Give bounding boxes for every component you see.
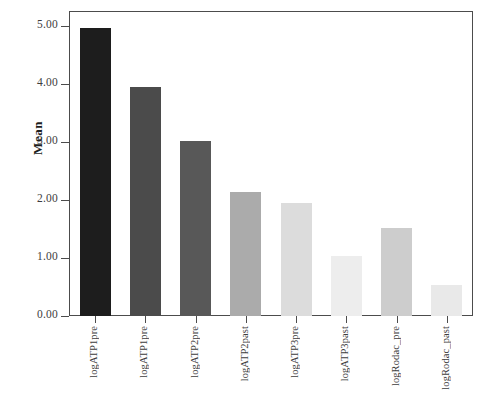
y-axis-tick-label: 3.00 <box>37 134 58 146</box>
y-axis-tick-mark <box>61 142 69 143</box>
x-axis-tick-mark <box>397 316 398 323</box>
y-axis-tick-mark <box>61 26 69 27</box>
x-axis-tick-label: logATP2past <box>239 326 253 381</box>
bar <box>281 203 312 316</box>
x-axis-tick-mark <box>145 316 146 323</box>
y-axis-tick-label: 0.00 <box>37 308 58 320</box>
x-axis-tick-label: logATP1pre <box>88 326 102 378</box>
x-axis-tick-label: logRodac_past <box>440 326 454 390</box>
y-axis-tick-label: 2.00 <box>37 192 58 204</box>
bar <box>331 256 362 316</box>
x-axis-tick-mark <box>95 316 96 323</box>
bar <box>80 28 111 316</box>
y-axis-tick-label: 4.00 <box>37 76 58 88</box>
bar <box>230 192 261 316</box>
y-axis-tick-mark <box>61 84 69 85</box>
x-axis-tick-mark <box>296 316 297 323</box>
x-axis-tick-mark <box>246 316 247 323</box>
y-axis-tick-label: 5.00 <box>37 18 58 30</box>
bar <box>381 228 412 316</box>
bar <box>180 141 211 316</box>
bars-group <box>70 12 472 316</box>
y-axis-tick-label: 1.00 <box>37 250 58 262</box>
bar <box>130 87 161 316</box>
bar-chart: Mean 0.001.002.003.004.005.00 logATP1pre… <box>0 0 483 397</box>
bar <box>431 285 462 316</box>
y-axis-tick-mark <box>61 258 69 259</box>
x-axis-tick-label: logATP1pre <box>138 326 152 378</box>
x-axis-tick-mark <box>346 316 347 323</box>
x-axis-tick-mark <box>196 316 197 323</box>
x-axis-tick-label: logATP3past <box>339 326 353 381</box>
y-axis-tick-mark <box>61 316 69 317</box>
y-axis-tick-mark <box>61 200 69 201</box>
x-axis-tick-mark <box>447 316 448 323</box>
x-axis-tick-label: logATP3pre <box>289 326 303 378</box>
x-axis-tick-label: logRodac_pre <box>390 326 404 386</box>
x-axis-tick-label: logATP2pre <box>189 326 203 378</box>
